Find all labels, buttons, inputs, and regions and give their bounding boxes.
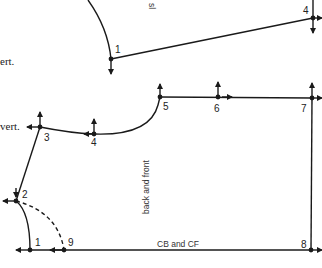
- vert-note-bottom: vert.: [0, 120, 20, 132]
- neck-side-line: [16, 127, 40, 201]
- label-b6: 6: [214, 103, 220, 114]
- label-s4: 4: [303, 5, 309, 16]
- point-s4: [311, 16, 316, 21]
- label-s1: 1: [115, 44, 121, 55]
- sleeve-label: sl: [147, 3, 157, 9]
- point-b2: [14, 199, 19, 204]
- point-b6: [216, 95, 221, 100]
- sleeve-hem-line: [111, 18, 313, 59]
- neck-curve: [16, 201, 30, 250]
- body-points: [14, 95, 315, 253]
- vert-note-top: ert.: [0, 55, 15, 67]
- label-b9: 9: [68, 237, 74, 248]
- point-b1: [28, 248, 33, 253]
- point-b4: [92, 132, 97, 137]
- label-b7: 7: [301, 103, 307, 114]
- point-b5: [158, 95, 163, 100]
- top-line: [160, 97, 312, 98]
- point-b8: [309, 248, 314, 253]
- label-b1: 1: [35, 237, 41, 248]
- shoulder-armhole-curve: [40, 97, 160, 134]
- point-b9: [62, 248, 67, 253]
- sleeve-piece: [88, 0, 322, 74]
- label-b4: 4: [91, 137, 97, 148]
- body-label: back and front: [141, 159, 151, 214]
- point-b7: [310, 96, 315, 101]
- point-b3: [38, 125, 43, 130]
- label-b3: 3: [44, 132, 50, 143]
- side-seam: [311, 98, 312, 250]
- sleeve-cap-curve: [88, 0, 111, 59]
- point-s1: [109, 57, 114, 62]
- pattern-diagram: 1 4 sl ert. vert.: [0, 0, 322, 268]
- label-b2: 2: [22, 189, 28, 200]
- label-b5: 5: [163, 101, 169, 112]
- label-b8: 8: [301, 239, 307, 250]
- center-line-label: CB and CF: [157, 239, 199, 249]
